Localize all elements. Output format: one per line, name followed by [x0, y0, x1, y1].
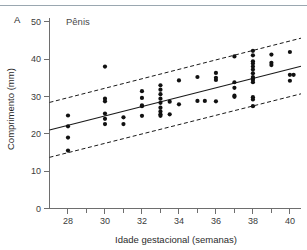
data-point: [251, 104, 255, 108]
data-point: [195, 99, 199, 103]
upper-band-line: [50, 38, 302, 102]
y-tick-label: 50: [31, 17, 41, 27]
data-point: [140, 96, 144, 100]
x-tick-label: 34: [174, 216, 184, 226]
lower-confidence-band: [50, 94, 302, 158]
x-tick-label: 36: [211, 216, 221, 226]
data-point: [140, 114, 144, 118]
data-point: [158, 97, 162, 101]
data-point: [203, 99, 207, 103]
y-tick-label: 10: [31, 166, 41, 176]
data-point: [168, 112, 172, 116]
y-tick-group: 01020304050: [31, 17, 50, 214]
data-point: [269, 63, 273, 67]
data-point: [288, 50, 292, 54]
data-point: [232, 86, 236, 90]
data-point: [251, 67, 255, 71]
data-point: [121, 115, 125, 119]
data-point: [66, 113, 70, 117]
data-point: [103, 122, 107, 126]
data-point: [158, 101, 162, 105]
data-point: [158, 92, 162, 96]
series-label: Pênis: [66, 16, 90, 27]
upper-confidence-band: [50, 38, 302, 102]
fit-line-path: [50, 66, 302, 130]
data-point: [177, 78, 181, 82]
data-point: [121, 122, 125, 126]
y-axis-title: Comprimento (mm): [5, 68, 16, 150]
data-point: [177, 102, 181, 106]
data-point: [251, 49, 255, 53]
data-point: [269, 53, 273, 57]
data-point: [251, 97, 255, 101]
data-point: [232, 54, 236, 58]
data-point: [103, 64, 107, 68]
data-point: [232, 80, 236, 84]
data-point: [168, 100, 172, 104]
scatter-plot-canvas: A Pênis 01020304050 Comprimento (mm) 283…: [0, 0, 307, 250]
data-point: [195, 75, 199, 79]
y-tick-label: 0: [36, 204, 41, 214]
regression-line: [50, 66, 302, 130]
x-axis: 28303234363840 Idade gestacional (semana…: [50, 209, 302, 246]
data-point: [232, 95, 236, 99]
data-point: [66, 135, 70, 139]
x-tick-label: 28: [63, 216, 73, 226]
data-point: [66, 124, 70, 128]
data-point: [288, 73, 292, 77]
data-point: [251, 80, 255, 84]
data-point: [292, 73, 296, 77]
x-tick-label: 38: [248, 216, 258, 226]
data-point: [140, 104, 144, 108]
data-point: [288, 79, 292, 83]
data-point: [158, 106, 162, 110]
x-tick-label: 30: [100, 216, 110, 226]
panel-label-group: A: [14, 14, 21, 25]
y-tick-label: 30: [31, 92, 41, 102]
x-tick-label: 32: [137, 216, 147, 226]
y-axis: 01020304050 Comprimento (mm): [5, 17, 50, 214]
series-label-group: Pênis: [66, 16, 90, 27]
panel-label: A: [14, 14, 21, 25]
data-point: [66, 149, 70, 153]
data-point: [103, 117, 107, 121]
data-point: [214, 99, 218, 103]
data-point: [158, 88, 162, 92]
data-point: [158, 83, 162, 87]
y-tick-label: 20: [31, 129, 41, 139]
data-point: [140, 89, 144, 93]
data-point: [251, 71, 255, 75]
x-tick-label: 40: [285, 216, 295, 226]
x-tick-group: 28303234363840: [63, 209, 295, 227]
data-point: [158, 114, 162, 118]
data-point: [214, 71, 218, 75]
data-points-group: [66, 49, 296, 153]
data-point: [103, 99, 107, 103]
y-tick-label: 40: [31, 54, 41, 64]
lower-band-line: [50, 94, 302, 158]
data-point: [103, 112, 107, 116]
data-point: [214, 78, 218, 82]
data-point: [251, 53, 255, 57]
x-axis-title: Idade gestacional (semanas): [115, 234, 237, 245]
figure-container: A Pênis 01020304050 Comprimento (mm) 283…: [0, 0, 307, 250]
